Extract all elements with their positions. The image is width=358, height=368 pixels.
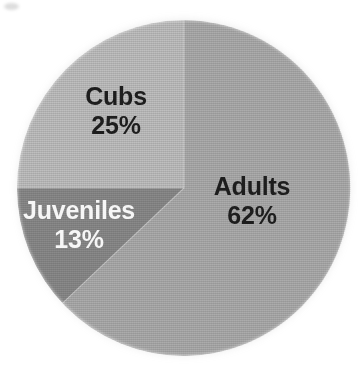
pie-chart: Cubs 25% Adults 62% Juveniles 13% (0, 0, 358, 368)
pie-slice-cubs[interactable] (17, 20, 184, 188)
scan-artifact-speck (4, 3, 19, 10)
pie-slices-container (17, 20, 351, 356)
